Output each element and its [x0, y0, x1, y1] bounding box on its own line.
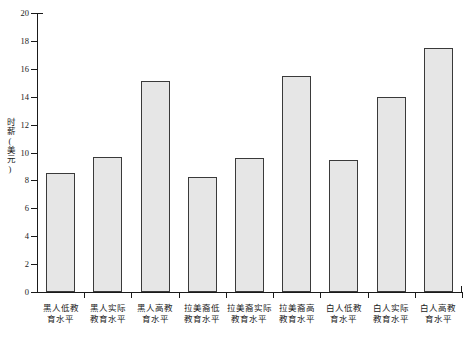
x-tick	[226, 292, 227, 298]
bar	[424, 48, 453, 292]
x-tick	[415, 292, 416, 298]
x-axis-line	[37, 292, 462, 293]
bar	[235, 158, 264, 292]
y-tick	[31, 125, 37, 126]
y-axis-top-cap	[37, 13, 43, 14]
x-tick	[84, 292, 85, 298]
y-tick-label: 0	[0, 288, 29, 297]
y-tick-label: 10	[0, 149, 29, 158]
y-tick	[31, 264, 37, 265]
bar	[93, 157, 122, 292]
y-tick-label: 8	[0, 176, 29, 185]
y-tick	[31, 13, 37, 14]
bar	[46, 173, 75, 292]
x-tick	[131, 292, 132, 298]
x-tick	[368, 292, 369, 298]
bar	[282, 76, 311, 292]
y-tick-label: 14	[0, 93, 29, 102]
x-tick	[320, 292, 321, 298]
bar	[329, 160, 358, 292]
x-tick	[179, 292, 180, 298]
bar	[188, 177, 217, 292]
x-tick	[273, 292, 274, 298]
y-tick	[31, 236, 37, 237]
x-tick	[462, 292, 463, 298]
bar	[377, 97, 406, 292]
x-tick-label-line: 育水平	[411, 314, 466, 325]
y-tick	[31, 41, 37, 42]
y-tick	[31, 153, 37, 154]
y-tick-label: 2	[0, 260, 29, 269]
y-tick-label: 4	[0, 232, 29, 241]
y-tick-label: 16	[0, 65, 29, 74]
bar	[141, 81, 170, 292]
y-tick-label: 20	[0, 9, 29, 18]
y-tick	[31, 208, 37, 209]
y-axis-line	[37, 13, 38, 293]
y-tick	[31, 292, 37, 293]
bar-chart: 时薪(美元) 02468101214161820 黑人低教育水平黑人实际教育水平…	[0, 0, 469, 344]
y-tick-label: 6	[0, 204, 29, 213]
x-tick-label-line: 白人高教	[411, 303, 466, 314]
y-tick-label: 18	[0, 37, 29, 46]
y-tick	[31, 69, 37, 70]
y-tick-label: 12	[0, 121, 29, 130]
x-tick-label: 白人高教育水平	[411, 303, 466, 325]
y-tick	[31, 97, 37, 98]
y-tick	[31, 180, 37, 181]
